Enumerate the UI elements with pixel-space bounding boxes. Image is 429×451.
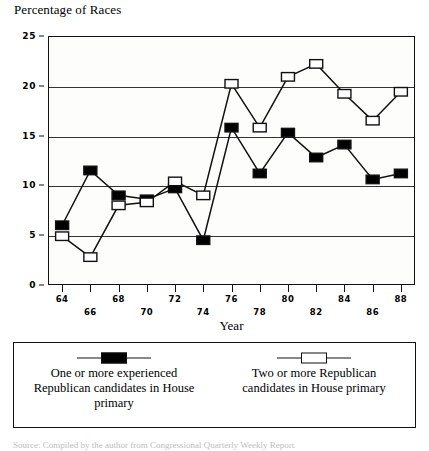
y-tick-label-10: 10 bbox=[22, 180, 36, 190]
y-tick-label-5: 5 bbox=[29, 230, 36, 240]
x-tick-mark-80 bbox=[288, 285, 289, 292]
x-tick-mark-66 bbox=[90, 285, 91, 292]
legend-label-open-line1: Two or more Republican bbox=[216, 366, 412, 381]
series-filled bbox=[56, 123, 408, 244]
x-tick-mark-72 bbox=[175, 285, 176, 292]
x-axis-title: Year bbox=[48, 318, 415, 334]
x-tick-label-82: 82 bbox=[310, 307, 323, 317]
data-point-marker bbox=[394, 169, 407, 178]
data-point-marker bbox=[394, 88, 407, 97]
data-point-marker bbox=[310, 153, 323, 162]
data-point-marker bbox=[56, 221, 69, 230]
x-tick-label-86: 86 bbox=[366, 307, 379, 317]
data-point-marker bbox=[197, 236, 210, 245]
legend-label-open-line2: candidates in House primary bbox=[216, 381, 412, 396]
legend-label-open: Two or more Republican candidates in Hou… bbox=[216, 366, 412, 396]
data-point-marker bbox=[366, 116, 379, 125]
x-tick-label-70: 70 bbox=[140, 307, 153, 317]
legend: One or more experienced Republican candi… bbox=[13, 342, 416, 428]
x-tick-label-84: 84 bbox=[338, 294, 351, 304]
x-tick-label-66: 66 bbox=[84, 307, 97, 317]
data-point-marker bbox=[281, 128, 294, 137]
x-tick-mark-64 bbox=[62, 285, 63, 292]
data-point-marker bbox=[225, 123, 238, 132]
x-tick-label-64: 64 bbox=[56, 294, 69, 304]
legend-label-filled-line2: Republican candidates in House bbox=[16, 381, 212, 396]
x-tick-mark-82 bbox=[316, 285, 317, 292]
y-tick-label-15: 15 bbox=[22, 131, 36, 141]
x-tick-mark-68 bbox=[119, 285, 120, 292]
x-tick-mark-74 bbox=[203, 285, 204, 292]
data-point-marker bbox=[112, 201, 125, 210]
data-point-marker bbox=[338, 140, 351, 149]
data-point-marker bbox=[197, 191, 210, 200]
data-point-marker bbox=[84, 253, 97, 261]
y-tick-label-25: 25 bbox=[22, 31, 36, 41]
data-point-marker bbox=[84, 166, 97, 175]
data-point-marker bbox=[338, 90, 351, 99]
data-point-marker bbox=[310, 60, 323, 69]
y-tick-label-0: 0 bbox=[29, 280, 36, 290]
x-tick-mark-84 bbox=[344, 285, 345, 292]
page-title: Percentage of Races bbox=[14, 2, 121, 18]
data-point-marker bbox=[281, 73, 294, 82]
x-tick-label-88: 88 bbox=[394, 294, 407, 304]
data-point-marker bbox=[169, 177, 182, 186]
y-tick-mark-5 bbox=[39, 235, 44, 236]
x-tick-mark-88 bbox=[401, 285, 402, 292]
source-note: Source: Compiled by the author from Cong… bbox=[13, 440, 416, 451]
y-tick-mark-25 bbox=[39, 36, 44, 37]
y-tick-label-20: 20 bbox=[22, 81, 36, 91]
data-point-marker bbox=[225, 80, 238, 89]
legend-label-filled-line1: One or more experienced bbox=[16, 366, 212, 381]
x-tick-mark-86 bbox=[373, 285, 374, 292]
x-tick-mark-76 bbox=[232, 285, 233, 292]
x-tick-mark-78 bbox=[260, 285, 261, 292]
data-point-marker bbox=[140, 198, 153, 207]
x-tick-label-80: 80 bbox=[282, 294, 295, 304]
y-axis: 0510152025 bbox=[0, 36, 44, 285]
x-tick-label-78: 78 bbox=[253, 307, 266, 317]
y-tick-mark-15 bbox=[39, 135, 44, 136]
series-layer bbox=[48, 36, 415, 285]
legend-item-one-or-more-experienced: One or more experienced Republican candi… bbox=[16, 351, 212, 411]
legend-label-filled-line3: primary bbox=[16, 396, 212, 411]
x-tick-label-68: 68 bbox=[112, 294, 125, 304]
data-point-marker bbox=[253, 169, 266, 178]
legend-item-two-or-more-republican: Two or more Republican candidates in Hou… bbox=[216, 351, 412, 396]
y-tick-mark-20 bbox=[39, 85, 44, 86]
x-tick-label-76: 76 bbox=[225, 294, 238, 304]
legend-swatch-filled-square-icon bbox=[77, 351, 151, 365]
legend-swatch-open-square-icon bbox=[277, 351, 351, 365]
x-tick-label-72: 72 bbox=[169, 294, 182, 304]
legend-label-filled: One or more experienced Republican candi… bbox=[16, 366, 212, 411]
y-tick-mark-0 bbox=[39, 285, 44, 286]
data-point-marker bbox=[56, 232, 69, 241]
series-open bbox=[56, 60, 408, 262]
x-tick-label-74: 74 bbox=[197, 307, 210, 317]
data-point-marker bbox=[366, 175, 379, 184]
x-tick-mark-70 bbox=[147, 285, 148, 292]
data-point-marker bbox=[112, 191, 125, 200]
data-point-marker bbox=[253, 123, 266, 132]
y-tick-mark-10 bbox=[39, 185, 44, 186]
